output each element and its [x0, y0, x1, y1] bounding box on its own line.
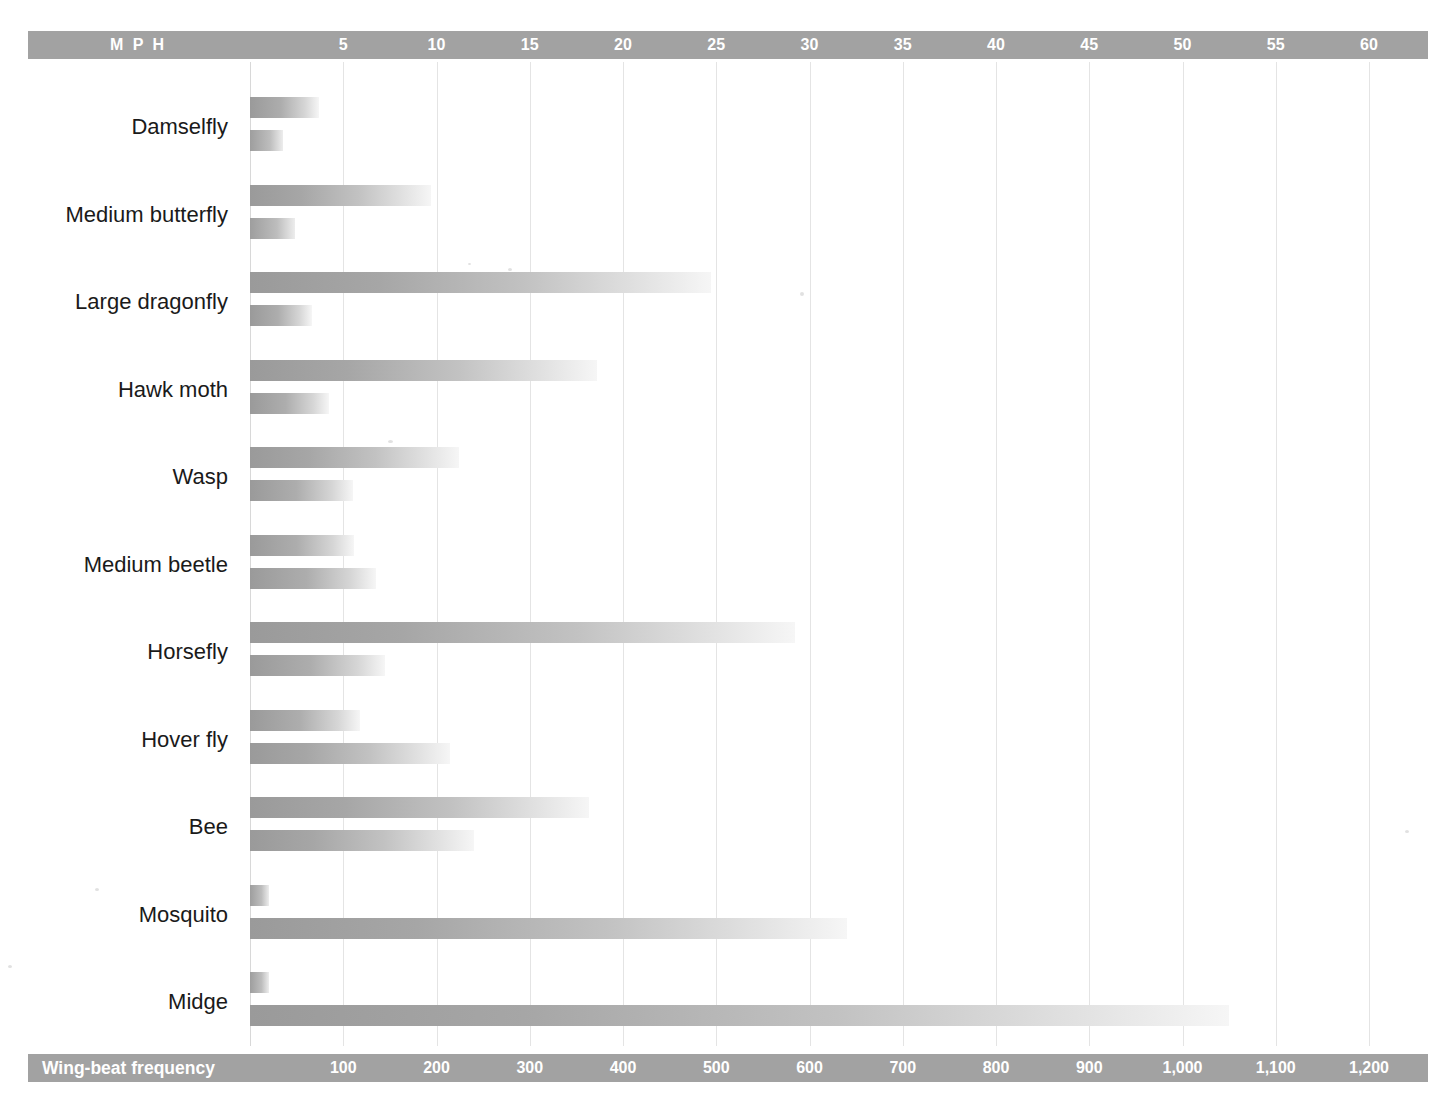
row-label-horsefly: Horsefly — [0, 637, 228, 667]
bar-frequency-3 — [250, 393, 329, 414]
bar-mph-0 — [250, 97, 319, 118]
bar-fill — [250, 272, 711, 293]
bar-fill — [250, 97, 319, 118]
row-label-medium-beetle: Medium beetle — [0, 550, 228, 580]
bar-fill — [250, 393, 329, 414]
bar-fill — [250, 743, 450, 764]
bar-fill — [250, 480, 353, 501]
scan-speck — [95, 888, 99, 891]
bar-mph-4 — [250, 447, 459, 468]
bar-fill — [250, 972, 269, 993]
bar-mph-7 — [250, 710, 360, 731]
chart-row: Hawk moth — [0, 347, 1448, 435]
row-label-medium-butterfly: Medium butterfly — [0, 200, 228, 230]
scan-speck — [468, 263, 471, 265]
chart-rows: DamselflyMedium butterflyLarge dragonfly… — [0, 0, 1448, 1108]
scan-speck — [388, 440, 393, 443]
bar-mph-2 — [250, 272, 711, 293]
bar-mph-3 — [250, 360, 597, 381]
bar-fill — [250, 797, 589, 818]
scan-speck — [8, 965, 12, 968]
bar-frequency-7 — [250, 743, 450, 764]
bar-frequency-5 — [250, 568, 376, 589]
bar-fill — [250, 535, 354, 556]
bar-fill — [250, 130, 283, 151]
row-label-mosquito: Mosquito — [0, 900, 228, 930]
bar-mph-5 — [250, 535, 354, 556]
bar-fill — [250, 655, 385, 676]
row-label-midge: Midge — [0, 987, 228, 1017]
bar-frequency-0 — [250, 130, 283, 151]
bar-frequency-8 — [250, 830, 474, 851]
bar-mph-6 — [250, 622, 795, 643]
chart-row: Hover fly — [0, 697, 1448, 785]
bar-fill — [250, 447, 459, 468]
row-label-large-dragonfly: Large dragonfly — [0, 287, 228, 317]
chart-row: Mosquito — [0, 872, 1448, 960]
bar-frequency-2 — [250, 305, 312, 326]
bar-fill — [250, 885, 269, 906]
bar-fill — [250, 218, 295, 239]
bar-frequency-9 — [250, 918, 847, 939]
bar-frequency-10 — [250, 1005, 1229, 1026]
bar-frequency-6 — [250, 655, 385, 676]
scan-speck — [800, 292, 804, 296]
bar-fill — [250, 568, 376, 589]
chart-row: Medium butterfly — [0, 172, 1448, 260]
row-label-hover-fly: Hover fly — [0, 725, 228, 755]
bar-fill — [250, 305, 312, 326]
bar-fill — [250, 1005, 1229, 1026]
chart-row: Large dragonfly — [0, 259, 1448, 347]
chart-row: Medium beetle — [0, 522, 1448, 610]
bar-frequency-4 — [250, 480, 353, 501]
bar-mph-10 — [250, 972, 269, 993]
row-label-damselfly: Damselfly — [0, 112, 228, 142]
bar-fill — [250, 622, 795, 643]
scan-speck — [1405, 830, 1409, 833]
bar-fill — [250, 360, 597, 381]
chart-row: Midge — [0, 959, 1448, 1047]
wing-beat-frequency-chart: M P H 51015202530354045505560 Wing-beat … — [0, 0, 1448, 1108]
bar-fill — [250, 830, 474, 851]
chart-row: Damselfly — [0, 84, 1448, 172]
bar-fill — [250, 918, 847, 939]
bar-fill — [250, 710, 360, 731]
bar-frequency-1 — [250, 218, 295, 239]
chart-row: Bee — [0, 784, 1448, 872]
bar-mph-9 — [250, 885, 269, 906]
row-label-bee: Bee — [0, 812, 228, 842]
row-label-wasp: Wasp — [0, 462, 228, 492]
scan-speck — [508, 268, 512, 271]
row-label-hawk-moth: Hawk moth — [0, 375, 228, 405]
bar-fill — [250, 185, 431, 206]
bar-mph-1 — [250, 185, 431, 206]
bar-mph-8 — [250, 797, 589, 818]
chart-row: Horsefly — [0, 609, 1448, 697]
chart-row: Wasp — [0, 434, 1448, 522]
